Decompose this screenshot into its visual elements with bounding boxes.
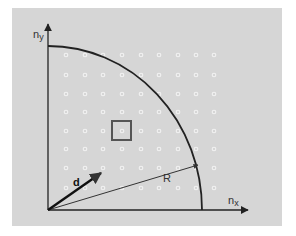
k-space-lattice-diagram: ny nx d R	[0, 0, 296, 236]
vector-R-label: R	[163, 172, 171, 184]
vector-d-label: d	[73, 176, 80, 188]
diagram-panel	[12, 8, 282, 226]
